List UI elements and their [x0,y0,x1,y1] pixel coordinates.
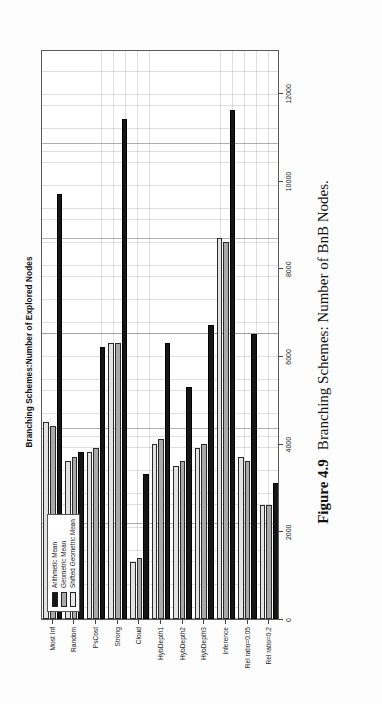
value-axis-tick-label: 4000 [285,437,292,453]
category-axis-tick [73,620,74,624]
bar [260,505,266,619]
legend-swatch-icon [61,592,67,607]
bar [93,448,99,619]
category-axis-tick-label: Rel ratio=0.05 [243,627,250,668]
bar [122,119,128,619]
category-axis-tick [182,620,183,624]
category-axis-tick [268,620,269,624]
category-axis-tick-label: Cloud [135,627,142,644]
category-axis-tick-label: Strong [113,627,120,646]
category-axis: Most InfRandomPsCostStrongCloudHybDepth1… [41,620,279,676]
bar-group [237,51,259,619]
bar [217,238,223,619]
value-axis: 020004000600080001000012000 [279,50,319,620]
figure-caption-text: Branching Schemes: Number of BnB Nodes. [315,180,331,450]
legend-swatch-icon [70,592,76,607]
value-axis-tick-label: 10000 [285,172,292,191]
value-axis-tick [279,531,283,532]
bar-group [150,51,172,619]
value-axis-tick-label: 6000 [285,349,292,365]
category-axis-tick [52,620,53,624]
bar [100,347,106,619]
bar [180,461,186,619]
value-axis-tick [279,268,283,269]
bar [143,474,149,619]
value-axis-tick-label: 12000 [285,84,292,103]
bar [165,343,171,619]
bar [115,343,121,619]
bar [238,457,244,619]
bar [273,483,279,619]
value-axis-tick [279,444,283,445]
category-axis-tick [160,620,161,624]
category-axis-tick [117,620,118,624]
bar [173,466,179,619]
bar [266,505,272,619]
chart-title: Branching Schemes:Number of Explored Nod… [25,28,34,676]
bar [223,242,229,619]
bar [130,562,136,619]
legend-swatch-icon [52,592,58,607]
category-axis-tick [138,620,139,624]
value-axis-tick-label: 0 [285,618,292,622]
legend-item: Arithmetic Mean [51,519,58,607]
bar [208,325,214,619]
legend-label: Arithmetic Mean [51,542,58,588]
category-axis-tick-label: HybDepth2 [178,627,185,660]
legend-item: Shifted Geometric Mean [69,519,76,607]
category-axis-tick [225,620,226,624]
category-axis-tick [247,620,248,624]
legend-label: Shifted Geometric Mean [69,519,76,588]
bar-group [85,51,107,619]
bar-group [172,51,194,619]
legend-label: Geometric Mean [60,541,67,588]
bar-group [129,51,151,619]
bar-group [258,51,279,619]
bar [245,461,251,619]
category-axis-tick-label: Inference [221,627,228,655]
bar [152,444,158,619]
bar [108,343,114,619]
bar-group [193,51,215,619]
value-axis-tick-label: 8000 [285,261,292,277]
value-axis-tick [279,181,283,182]
legend: Arithmetic MeanGeometric MeanShifted Geo… [47,514,80,612]
bar [251,334,257,619]
bar [201,444,207,619]
bar [87,452,93,619]
bar [230,110,236,619]
category-axis-tick-label: Rel ratio=0.2 [265,627,272,665]
bar [158,439,164,619]
value-axis-tick [279,93,283,94]
figure-caption: Figure 4.9Branching Schemes: Number of B… [315,28,332,676]
category-axis-tick-label: Random [70,627,77,652]
category-axis-tick-label: HybDepth1 [157,627,164,660]
category-axis-tick-label: HybDepth3 [200,627,207,660]
bar [186,387,192,619]
value-axis-tick-label: 2000 [285,525,292,541]
category-axis-tick-label: PsCost [92,627,99,648]
category-axis-tick-label: Most Inf [48,627,55,650]
value-axis-tick [279,356,283,357]
rotated-figure-container: Branching Schemes:Number of Explored Nod… [23,28,359,676]
bar [195,448,201,619]
category-axis-tick [95,620,96,624]
bar-group [215,51,237,619]
bar [137,558,143,619]
bar-group [107,51,129,619]
value-axis-tick [279,619,283,620]
figure-number: Figure 4.9 [315,459,331,524]
category-axis-tick [203,620,204,624]
figure-page: Branching Schemes:Number of Explored Nod… [0,0,382,704]
legend-item: Geometric Mean [60,519,67,607]
